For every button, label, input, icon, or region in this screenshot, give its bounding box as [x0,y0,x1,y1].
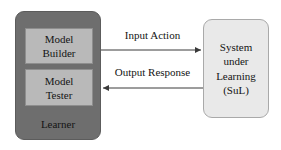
output-response-label: Output Response [101,66,204,79]
input-action-label: Input Action [101,29,204,42]
model-learning-diagram: Model Builder Model Tester Learner Syste… [0,0,281,150]
